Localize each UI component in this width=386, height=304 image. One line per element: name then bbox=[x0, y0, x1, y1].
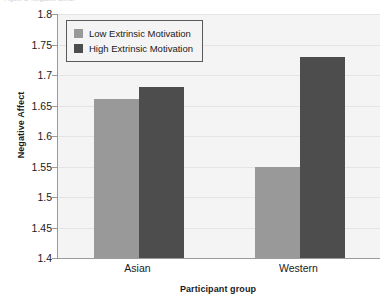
x-axis-title: Participant group bbox=[57, 284, 379, 294]
y-tick-label: 1.65 bbox=[12, 101, 52, 111]
legend-item: Low Extrinsic Motivation bbox=[74, 26, 193, 41]
top-caption: Figure 1. Negative affect bbox=[4, 0, 74, 3]
x-tick-label: Asian bbox=[88, 263, 188, 274]
legend-item: High Extrinsic Motivation bbox=[74, 41, 193, 56]
bar bbox=[255, 167, 300, 259]
chart-legend: Low Extrinsic Motivation High Extrinsic … bbox=[66, 20, 203, 62]
bar bbox=[300, 57, 345, 258]
y-tick-label: 1.6 bbox=[12, 131, 52, 141]
legend-label: High Extrinsic Motivation bbox=[89, 44, 193, 54]
bar-chart-figure: Figure 1. Negative affect Negative Affec… bbox=[0, 0, 386, 304]
y-tick-label: 1.55 bbox=[12, 162, 52, 172]
legend-swatch-high-icon bbox=[74, 44, 83, 53]
bar bbox=[139, 87, 184, 258]
legend-swatch-low-icon bbox=[74, 29, 83, 38]
gridline bbox=[58, 14, 380, 15]
bar bbox=[94, 99, 139, 258]
y-tick-label: 1.8 bbox=[12, 9, 52, 19]
y-tick-label: 1.5 bbox=[12, 192, 52, 202]
y-tick-label: 1.45 bbox=[12, 223, 52, 233]
legend-label: Low Extrinsic Motivation bbox=[89, 29, 191, 39]
y-tick-label: 1.75 bbox=[12, 40, 52, 50]
x-tick-label: Western bbox=[249, 263, 349, 274]
y-tick-label: 1.7 bbox=[12, 70, 52, 80]
y-tick-label: 1.4 bbox=[12, 253, 52, 263]
